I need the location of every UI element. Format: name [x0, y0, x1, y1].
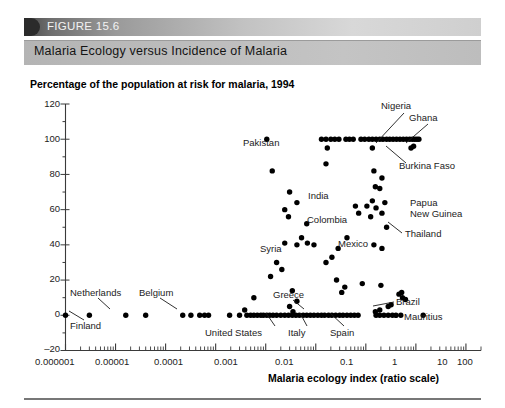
leader-nigeria — [376, 113, 404, 143]
data-point — [407, 137, 412, 142]
data-point — [308, 313, 313, 318]
y-tick-label-40: 40 — [34, 238, 60, 249]
annotation-spain: Spain — [330, 327, 354, 338]
data-point — [370, 198, 375, 203]
data-point — [329, 254, 334, 259]
data-point — [352, 313, 357, 318]
data-point — [362, 137, 367, 142]
data-point — [368, 214, 373, 219]
leader-brazil — [373, 302, 394, 306]
data-point — [270, 313, 275, 318]
annotation-italy: Italy — [288, 327, 305, 338]
data-point — [373, 137, 378, 142]
leader-belgium — [160, 298, 177, 309]
data-point — [373, 313, 378, 318]
y-tick-label-0: 0 — [34, 308, 60, 319]
data-point — [386, 313, 391, 318]
data-point — [382, 200, 387, 205]
leader-greece — [293, 300, 304, 309]
data-point — [370, 137, 375, 142]
annotation-ghana: Ghana — [409, 112, 438, 123]
leader-finland — [69, 311, 84, 320]
data-point — [377, 186, 382, 191]
annotation-mauritius: Mauritius — [404, 311, 443, 322]
data-point — [408, 145, 413, 150]
data-point — [264, 313, 269, 318]
data-point — [373, 309, 378, 314]
data-point — [347, 137, 352, 142]
data-point — [398, 313, 403, 318]
chart-title: Percentage of the population at risk for… — [30, 78, 294, 90]
data-point — [356, 210, 361, 215]
x-axis-ticks — [66, 344, 482, 351]
mauritius-marker-dot — [394, 314, 398, 318]
data-point — [388, 302, 393, 307]
data-point — [394, 137, 399, 142]
annotation-finland: Finland — [70, 320, 101, 331]
annotation-burkina-faso: Burkina Faso — [399, 160, 455, 171]
data-point — [270, 168, 275, 173]
data-point — [323, 161, 328, 166]
data-point — [384, 225, 389, 230]
data-point — [351, 137, 356, 142]
data-point — [206, 313, 211, 318]
data-point — [326, 313, 331, 318]
data-point — [379, 210, 384, 215]
data-point — [360, 281, 365, 286]
data-point — [143, 313, 148, 318]
data-point — [332, 137, 337, 142]
data-point — [315, 313, 320, 318]
data-point — [255, 313, 260, 318]
x-tick-label-1e-3: 0.001 — [214, 356, 238, 367]
annotation-papua-line2: New Guinea — [410, 208, 462, 219]
data-point — [373, 205, 378, 210]
data-point — [319, 137, 324, 142]
data-point — [274, 313, 279, 318]
annotation-united-states: United States — [205, 327, 262, 338]
leader-united-states — [266, 313, 275, 326]
data-point — [274, 260, 279, 265]
data-point — [378, 283, 383, 288]
data-point — [401, 137, 406, 142]
data-point — [311, 242, 316, 247]
data-point — [258, 313, 263, 318]
data-point — [343, 137, 348, 142]
data-point — [348, 313, 353, 318]
data-point — [279, 267, 284, 272]
annotation-pakistan: Pakistan — [243, 137, 279, 148]
annotation-papua-line1: Papua — [410, 197, 437, 208]
data-point — [342, 284, 347, 289]
data-point — [328, 137, 333, 142]
data-point — [282, 240, 287, 245]
leader-thailand — [388, 222, 402, 233]
annotation-mexico: Mexico — [338, 238, 368, 249]
data-point — [304, 313, 309, 318]
data-point — [339, 290, 344, 295]
data-point — [294, 242, 299, 247]
data-point — [293, 313, 298, 318]
figure-bottom-rule — [24, 398, 481, 400]
annotation-nigeria: Nigeria — [381, 100, 411, 111]
data-point — [282, 313, 287, 318]
data-point — [325, 145, 330, 150]
data-point — [387, 137, 392, 142]
data-point — [377, 307, 382, 312]
data-point — [248, 313, 253, 318]
data-point — [373, 184, 378, 189]
leader-netherlands — [98, 298, 110, 309]
data-point — [399, 290, 404, 295]
data-point — [340, 313, 345, 318]
data-point — [261, 313, 266, 318]
leader-ghana — [406, 124, 428, 143]
x-tick-label-1: 1 — [392, 356, 397, 367]
y-tick-label-80: 80 — [34, 168, 60, 179]
data-point — [322, 313, 327, 318]
data-point — [188, 313, 193, 318]
data-point — [366, 137, 371, 142]
x-axis-title: Malaria ecology index (ratio scale) — [268, 372, 439, 384]
data-point — [329, 313, 334, 318]
data-point — [337, 313, 342, 318]
x-tick-label-1e-2: 0.01 — [275, 356, 294, 367]
data-point — [299, 235, 304, 240]
annotation-colombia: Colombia — [307, 214, 347, 225]
